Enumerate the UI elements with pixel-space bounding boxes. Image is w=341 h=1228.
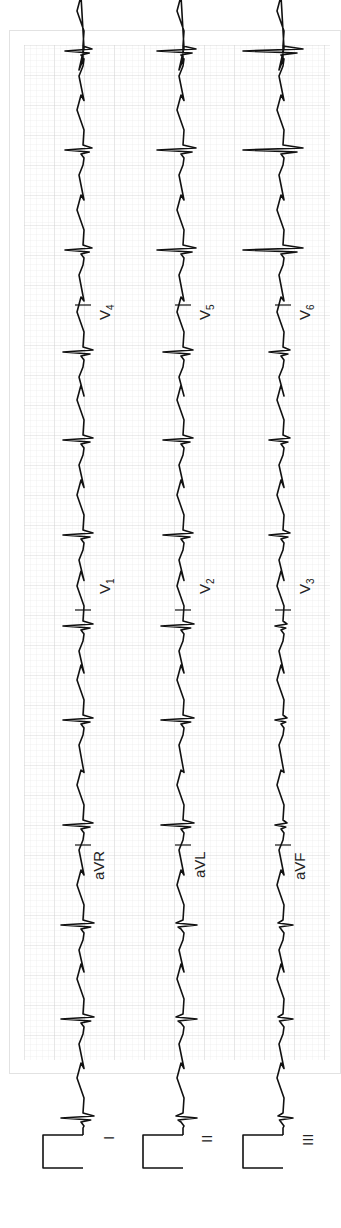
- lead-label-V2: V2: [196, 578, 216, 594]
- ecg-chart: [0, 0, 341, 1228]
- lead-label-aVL: aVL: [191, 851, 208, 878]
- lead-label-V3: V3: [296, 578, 316, 594]
- lead-label-III: III: [299, 1133, 316, 1146]
- lead-label-V5: V5: [196, 304, 216, 320]
- calibration-pulse: [243, 1135, 283, 1168]
- lead-label-V4: V4: [96, 304, 116, 320]
- lead-label-aVR: aVR: [90, 851, 107, 880]
- calibration-pulse: [43, 1135, 83, 1168]
- calibration-pulse: [143, 1135, 183, 1168]
- lead-label-I: I: [100, 1136, 117, 1140]
- lead-label-V6: V6: [296, 304, 316, 320]
- lead-label-aVF: aVF: [291, 852, 308, 880]
- lead-label-II: II: [198, 1135, 215, 1143]
- lead-label-V1: V1: [96, 578, 116, 594]
